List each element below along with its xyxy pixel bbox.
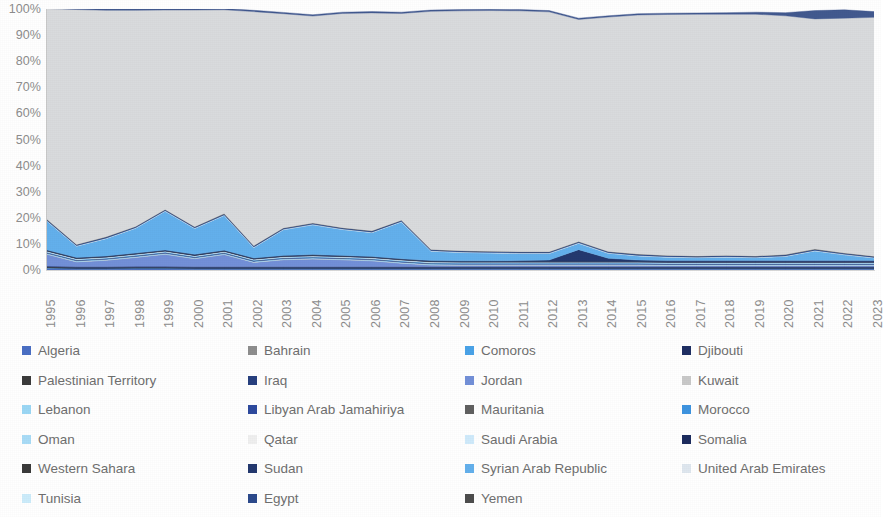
legend-swatch-icon xyxy=(682,464,691,473)
legend-item[interactable]: Bahrain xyxy=(248,336,311,366)
y-axis-tick-label: 60% xyxy=(16,107,41,119)
legend-item[interactable]: Comoros xyxy=(465,336,536,366)
legend-item[interactable]: Syrian Arab Republic xyxy=(465,454,607,484)
x-axis-tick-label: 2019 xyxy=(753,312,767,328)
legend-label: Syrian Arab Republic xyxy=(481,461,607,476)
legend-swatch-icon xyxy=(22,464,31,473)
legend-row: LebanonLibyan Arab JamahiriyaMauritaniaM… xyxy=(0,395,881,425)
x-axis-tick-label: 2020 xyxy=(782,312,796,328)
x-axis-tick-label: 1998 xyxy=(133,312,147,328)
legend-swatch-icon xyxy=(248,435,257,444)
x-axis-tick-label: 2022 xyxy=(841,312,855,328)
area-series-group xyxy=(47,9,874,270)
legend-row: Western SaharaSudanSyrian Arab RepublicU… xyxy=(0,454,881,484)
legend-row: AlgeriaBahrainComorosDjibouti xyxy=(0,336,881,366)
y-axis-tick-label: 20% xyxy=(16,212,41,224)
x-axis-tick-label: 2017 xyxy=(694,312,708,328)
x-axis-tick-label: 2013 xyxy=(576,312,590,328)
legend-item[interactable]: Kuwait xyxy=(682,366,739,396)
plot-area xyxy=(47,9,874,270)
legend-swatch-icon xyxy=(682,346,691,355)
legend-label: Iraq xyxy=(264,373,287,388)
y-axis-tick-label: 100% xyxy=(9,3,41,15)
legend-swatch-icon xyxy=(248,346,257,355)
legend-row: Palestinian TerritoryIraqJordanKuwait xyxy=(0,366,881,396)
legend-item[interactable]: Egypt xyxy=(248,484,299,514)
legend-item[interactable]: Lebanon xyxy=(22,395,91,425)
x-axis-tick-label: 2003 xyxy=(280,312,294,328)
legend-swatch-icon xyxy=(682,405,691,414)
legend-row: TunisiaEgyptYemen xyxy=(0,484,881,514)
x-axis-tick-label: 2002 xyxy=(251,312,265,328)
legend-swatch-icon xyxy=(22,405,31,414)
x-axis-line xyxy=(46,270,875,271)
y-axis-tick-label: 40% xyxy=(16,160,41,172)
legend-item[interactable]: Yemen xyxy=(465,484,523,514)
x-axis-tick-label: 2012 xyxy=(546,312,560,328)
legend-label: Qatar xyxy=(264,432,298,447)
x-axis-tick-label: 2006 xyxy=(369,312,383,328)
legend-swatch-icon xyxy=(22,435,31,444)
legend-swatch-icon xyxy=(248,376,257,385)
legend-swatch-icon xyxy=(465,346,474,355)
x-axis-tick-label: 2021 xyxy=(812,312,826,328)
y-axis-tick-label: 80% xyxy=(16,55,41,67)
legend-item[interactable]: Mauritania xyxy=(465,395,544,425)
y-axis-tick-label: 90% xyxy=(16,29,41,41)
legend-label: Morocco xyxy=(698,402,750,417)
legend-swatch-icon xyxy=(465,405,474,414)
legend-item[interactable]: Morocco xyxy=(682,395,750,425)
legend-item[interactable]: Algeria xyxy=(22,336,80,366)
legend-item[interactable]: Oman xyxy=(22,425,75,455)
legend-label: Djibouti xyxy=(698,343,743,358)
legend-swatch-icon xyxy=(465,494,474,503)
x-axis-tick-label: 1997 xyxy=(103,312,117,328)
legend-swatch-icon xyxy=(682,435,691,444)
x-axis-tick-label: 2023 xyxy=(871,312,885,328)
y-axis-tick-label: 50% xyxy=(16,134,41,146)
x-axis-tick-label: 2000 xyxy=(192,312,206,328)
legend-item[interactable]: Qatar xyxy=(248,425,298,455)
legend-swatch-icon xyxy=(22,346,31,355)
x-axis-tick-label: 2014 xyxy=(605,312,619,328)
stacked-area-chart: 100%90%80%70%60%50%40%30%20%10%0% 199519… xyxy=(0,0,881,276)
legend-swatch-icon xyxy=(248,405,257,414)
legend-item[interactable]: Somalia xyxy=(682,425,747,455)
y-axis-tick-label: 0% xyxy=(23,264,41,276)
legend-item[interactable]: Djibouti xyxy=(682,336,743,366)
y-axis-tick-label: 70% xyxy=(16,81,41,93)
legend-label: Palestinian Territory xyxy=(38,373,156,388)
legend-label: Jordan xyxy=(481,373,522,388)
legend-row: OmanQatarSaudi ArabiaSomalia xyxy=(0,425,881,455)
x-axis-tick-label: 1999 xyxy=(162,312,176,328)
x-axis-tick-label: 2007 xyxy=(398,312,412,328)
legend-item[interactable]: United Arab Emirates xyxy=(682,454,826,484)
legend-item[interactable]: Iraq xyxy=(248,366,287,396)
legend-item[interactable]: Saudi Arabia xyxy=(465,425,558,455)
x-axis-tick-label: 2015 xyxy=(635,312,649,328)
legend-item[interactable]: Palestinian Territory xyxy=(22,366,156,396)
legend-label: Somalia xyxy=(698,432,747,447)
x-axis-tick-label: 2004 xyxy=(310,312,324,328)
legend-swatch-icon xyxy=(465,435,474,444)
y-axis-tick-label: 10% xyxy=(16,238,41,250)
x-axis-tick-label: 1996 xyxy=(74,312,88,328)
legend-item[interactable]: Tunisia xyxy=(22,484,81,514)
legend-item[interactable]: Libyan Arab Jamahiriya xyxy=(248,395,404,425)
legend-label: Egypt xyxy=(264,491,299,506)
legend-label: Lebanon xyxy=(38,402,91,417)
legend-item[interactable]: Sudan xyxy=(248,454,303,484)
legend-item[interactable]: Jordan xyxy=(465,366,522,396)
legend-label: Bahrain xyxy=(264,343,311,358)
legend-label: United Arab Emirates xyxy=(698,461,826,476)
legend-label: Comoros xyxy=(481,343,536,358)
x-axis-tick-label: 2005 xyxy=(339,312,353,328)
x-axis-tick-label: 2011 xyxy=(517,312,531,328)
x-axis-tick-label: 2009 xyxy=(458,312,472,328)
legend-label: Oman xyxy=(38,432,75,447)
x-axis: 1995199619971998199920002001200220032004… xyxy=(47,276,874,334)
y-axis-tick-label: 30% xyxy=(16,186,41,198)
legend-item[interactable]: Western Sahara xyxy=(22,454,135,484)
legend-swatch-icon xyxy=(465,376,474,385)
